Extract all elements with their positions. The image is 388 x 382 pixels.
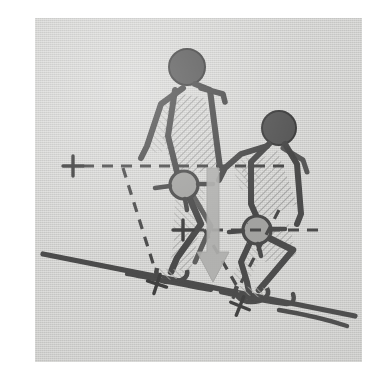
- illustration-root: Two skiers on a slope with balance refer…: [0, 0, 388, 382]
- center-of-mass-upper-marker: [63, 156, 83, 176]
- uphill-head: [169, 49, 205, 85]
- balance-line-uphill: [123, 168, 157, 276]
- scanned-plate: [35, 18, 362, 362]
- uphill-hip-joint-marker: [170, 171, 198, 199]
- ski-technique-drawing: [35, 18, 362, 362]
- skier-downhill: [219, 111, 347, 326]
- downhill-head: [262, 111, 296, 145]
- snow-surface-line: [43, 254, 355, 316]
